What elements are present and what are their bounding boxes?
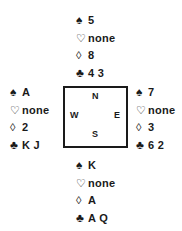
east-spades-row: ♠ 7 bbox=[136, 84, 175, 102]
north-clubs-row: ♣ 4 3 bbox=[76, 65, 115, 83]
compass-west-label: W bbox=[70, 110, 79, 120]
west-hand: ♠ A ♡ none ◊ 2 ♣ K J bbox=[10, 84, 49, 154]
north-diamonds-row: ◊ 8 bbox=[76, 47, 115, 65]
west-diamonds-row: ◊ 2 bbox=[10, 119, 49, 137]
west-clubs-cards: K J bbox=[22, 137, 40, 155]
heart-icon: ♡ bbox=[136, 102, 148, 120]
south-hearts-row: ♡ none bbox=[76, 175, 115, 193]
spade-icon: ♠ bbox=[136, 84, 148, 102]
east-diamonds-row: ◊ 3 bbox=[136, 119, 175, 137]
diamond-icon: ◊ bbox=[10, 119, 22, 137]
south-spades-cards: K bbox=[88, 157, 96, 175]
club-icon: ♣ bbox=[76, 210, 88, 228]
club-icon: ♣ bbox=[10, 137, 22, 155]
diamond-icon: ◊ bbox=[76, 47, 88, 65]
east-hearts-row: ♡ none bbox=[136, 102, 175, 120]
west-clubs-row: ♣ K J bbox=[10, 137, 49, 155]
east-diamonds-cards: 3 bbox=[148, 119, 154, 137]
west-spades-row: ♠ A bbox=[10, 84, 49, 102]
spade-icon: ♠ bbox=[76, 157, 88, 175]
heart-icon: ♡ bbox=[76, 175, 88, 193]
west-hearts-cards: none bbox=[22, 102, 49, 120]
compass-north-label: N bbox=[92, 91, 99, 101]
south-diamonds-row: ◊ A bbox=[76, 192, 115, 210]
north-diamonds-cards: 8 bbox=[88, 47, 94, 65]
north-clubs-cards: 4 3 bbox=[88, 65, 104, 83]
east-clubs-row: ♣ 6 2 bbox=[136, 137, 175, 155]
south-hand: ♠ K ♡ none ◊ A ♣ A Q bbox=[76, 157, 115, 227]
east-clubs-cards: 6 2 bbox=[148, 137, 164, 155]
south-clubs-row: ♣ A Q bbox=[76, 210, 115, 228]
north-spades-cards: 5 bbox=[88, 12, 94, 30]
west-hearts-row: ♡ none bbox=[10, 102, 49, 120]
north-hearts-row: ♡ none bbox=[76, 30, 115, 48]
club-icon: ♣ bbox=[76, 65, 88, 83]
compass-east-label: E bbox=[114, 110, 120, 120]
compass-south-label: S bbox=[92, 129, 98, 139]
south-hearts-cards: none bbox=[88, 175, 115, 193]
east-hearts-cards: none bbox=[148, 102, 175, 120]
compass-box: N W E S bbox=[63, 86, 128, 148]
north-hand: ♠ 5 ♡ none ◊ 8 ♣ 4 3 bbox=[76, 12, 115, 82]
diamond-icon: ◊ bbox=[136, 119, 148, 137]
spade-icon: ♠ bbox=[10, 84, 22, 102]
west-diamonds-cards: 2 bbox=[22, 119, 28, 137]
south-spades-row: ♠ K bbox=[76, 157, 115, 175]
heart-icon: ♡ bbox=[10, 102, 22, 120]
south-diamonds-cards: A bbox=[88, 192, 96, 210]
west-spades-cards: A bbox=[22, 84, 30, 102]
diamond-icon: ◊ bbox=[76, 192, 88, 210]
spade-icon: ♠ bbox=[76, 12, 88, 30]
club-icon: ♣ bbox=[136, 137, 148, 155]
north-spades-row: ♠ 5 bbox=[76, 12, 115, 30]
heart-icon: ♡ bbox=[76, 30, 88, 48]
east-spades-cards: 7 bbox=[148, 84, 154, 102]
east-hand: ♠ 7 ♡ none ◊ 3 ♣ 6 2 bbox=[136, 84, 175, 154]
north-hearts-cards: none bbox=[88, 30, 115, 48]
south-clubs-cards: A Q bbox=[88, 210, 108, 228]
